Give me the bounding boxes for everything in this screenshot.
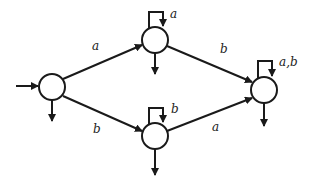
state-q0 <box>39 74 65 100</box>
edge-q2-q3 <box>167 98 252 131</box>
loop-q2 <box>149 108 163 124</box>
label-q3-loop: a,b <box>279 55 298 69</box>
label-q1-loop: a <box>170 7 177 21</box>
label-q0-q1: a <box>92 39 99 53</box>
label-q1-q3: b <box>220 42 228 56</box>
label-q0-q2: b <box>93 122 101 136</box>
state-q1 <box>142 27 168 53</box>
state-diagram: a b a b b a a,b <box>0 0 310 184</box>
edge-q0-q2 <box>63 96 142 131</box>
loop-q1 <box>149 12 163 28</box>
loop-q3 <box>258 61 272 78</box>
diagram-svg: a b a b b a a,b <box>0 0 310 184</box>
state-q3 <box>251 77 277 103</box>
label-q2-loop: b <box>171 102 179 116</box>
edge-q0-q1 <box>63 45 142 79</box>
edge-q1-q3 <box>167 46 252 82</box>
state-q2 <box>142 123 168 149</box>
label-q2-q3: a <box>212 120 219 134</box>
